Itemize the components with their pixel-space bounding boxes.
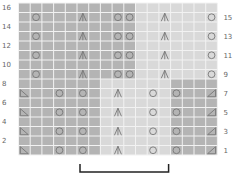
row-label-left: 2 bbox=[2, 137, 6, 145]
repeat-bracket bbox=[80, 164, 169, 172]
row-label-left: 10 bbox=[2, 61, 11, 69]
row-label-right: 7 bbox=[223, 90, 227, 98]
knitting-chart: 24681012141613579111315 bbox=[0, 0, 239, 187]
row-label-right: 9 bbox=[223, 71, 227, 79]
row-label-right: 13 bbox=[223, 33, 232, 41]
row-label-right: 11 bbox=[223, 52, 232, 60]
row-label-right: 5 bbox=[223, 109, 227, 117]
row-label-left: 8 bbox=[2, 80, 6, 88]
row-label-left: 14 bbox=[2, 23, 11, 31]
row-label-right: 1 bbox=[223, 147, 227, 155]
row-label-left: 12 bbox=[2, 42, 11, 50]
row-label-right: 3 bbox=[223, 128, 227, 136]
row-label-left: 4 bbox=[2, 118, 7, 126]
row-label-left: 6 bbox=[2, 99, 7, 107]
row-label-left: 16 bbox=[2, 4, 11, 12]
row-label-right: 15 bbox=[223, 14, 232, 22]
